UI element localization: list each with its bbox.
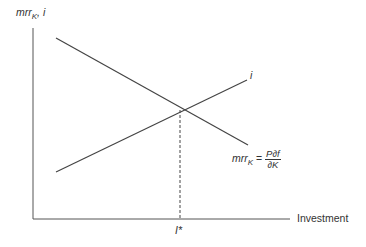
y-axis-label-sub: K bbox=[32, 12, 37, 21]
mrr-curve-label: mrrK = P∂f∂K bbox=[232, 149, 281, 170]
mrr-fraction: P∂f∂K bbox=[265, 149, 281, 170]
mrr-fraction-denominator: ∂K bbox=[265, 160, 281, 170]
y-axis-label-suffix: , i bbox=[37, 6, 45, 18]
x-axis-label: Investment bbox=[297, 212, 348, 224]
y-axis-label: mrrK, i bbox=[16, 6, 45, 18]
interest-rate-label: i bbox=[250, 69, 252, 81]
interest-rate-curve bbox=[56, 80, 247, 172]
mrr-label-main: mrr bbox=[232, 152, 248, 164]
mrr-label-sub: K bbox=[248, 158, 253, 167]
mrr-curve bbox=[56, 38, 248, 145]
y-axis-label-main: mrr bbox=[16, 6, 32, 18]
equilibrium-investment-label: I* bbox=[175, 224, 182, 236]
diagram-canvas bbox=[0, 0, 366, 247]
mrr-label-eq: = bbox=[253, 152, 265, 164]
